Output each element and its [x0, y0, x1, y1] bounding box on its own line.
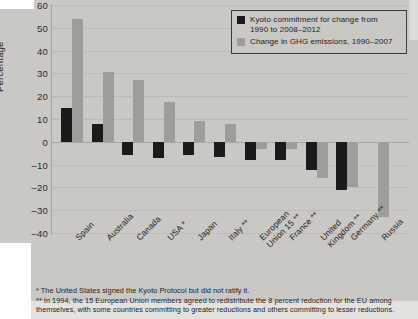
bar-kyoto-4 [183, 142, 194, 156]
gridline--20 [52, 187, 409, 188]
y-tick-label--10: –10 [6, 161, 48, 170]
gridline-60 [52, 5, 409, 6]
bar-kyoto-6 [245, 142, 256, 160]
legend-item-ghg: Change in GHG emissions, 1990–2007 [237, 37, 401, 47]
y-tick-label-20: 20 [6, 92, 48, 101]
footnote-double-asterisk-2: themselves, with some countries committi… [36, 306, 414, 315]
scan-notch-bottom-left [0, 243, 31, 319]
chart-legend: Kyoto commitment for change from1990 to … [231, 10, 407, 54]
bar-kyoto-1 [92, 124, 103, 142]
legend-swatch-kyoto-icon [237, 16, 245, 24]
y-tick-label--30: –30 [6, 206, 48, 215]
footnote-single-asterisk: * The United States signed the Kyoto Pro… [36, 287, 414, 296]
y-tick-label--20: –20 [6, 183, 48, 192]
bar-kyoto-9 [336, 142, 347, 190]
y-axis-ticks: 6050403020100–10–20–30–40 [0, 0, 48, 240]
bar-ghg-0 [72, 19, 83, 142]
legend-swatch-ghg-icon [237, 38, 245, 46]
scan-notch-right [409, 0, 418, 40]
bar-ghg-8 [317, 142, 328, 178]
y-axis-title: Percentage [0, 41, 5, 92]
bar-kyoto-5 [214, 142, 225, 157]
bar-ghg-4 [194, 121, 205, 142]
y-tick-label-0: 0 [6, 138, 48, 147]
bar-ghg-1 [103, 72, 114, 142]
footnotes: * The United States signed the Kyoto Pro… [36, 287, 414, 316]
chart-page: 6050403020100–10–20–30–40 Percentage Spa… [0, 0, 418, 319]
legend-item-kyoto: Kyoto commitment for change from1990 to … [237, 15, 401, 34]
y-tick-label--40: –40 [6, 229, 48, 238]
bar-ghg-3 [164, 102, 175, 142]
bar-ghg-6 [256, 142, 267, 149]
y-tick-label-10: 10 [6, 115, 48, 124]
bar-kyoto-3 [153, 142, 164, 158]
bar-kyoto-0 [61, 108, 72, 142]
y-tick-label-40: 40 [6, 47, 48, 56]
legend-label-kyoto: Kyoto commitment for change from1990 to … [250, 15, 378, 34]
bar-kyoto-2 [122, 142, 133, 156]
y-tick-label-50: 50 [6, 24, 48, 33]
bar-ghg-5 [225, 124, 236, 142]
bar-ghg-2 [133, 80, 144, 142]
footnote-double-asterisk-1: ** In 1994, the 15 European Union member… [36, 297, 414, 306]
bar-ghg-7 [286, 142, 297, 149]
bar-kyoto-8 [306, 142, 317, 171]
y-tick-label-30: 30 [6, 69, 48, 78]
bar-kyoto-7 [275, 142, 286, 160]
bar-ghg-9 [347, 142, 358, 188]
legend-label-ghg: Change in GHG emissions, 1990–2007 [250, 37, 393, 47]
y-tick-label-60: 60 [6, 1, 48, 10]
